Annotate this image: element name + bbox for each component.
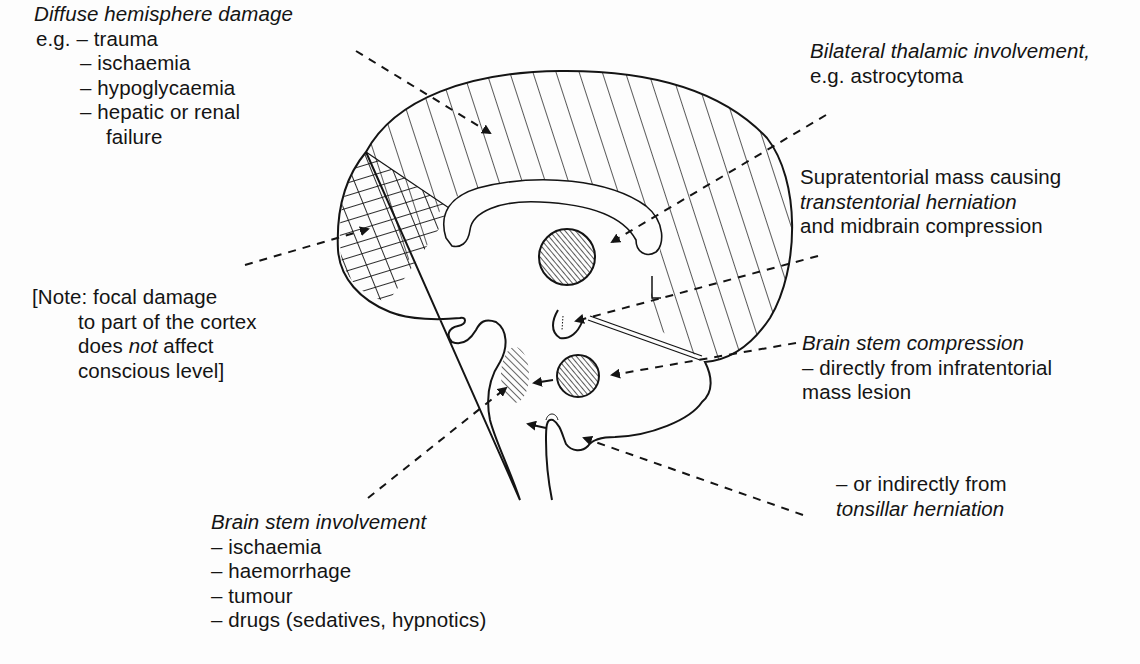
tonsillar-label: – or indirectly from tonsillar herniatio… (836, 472, 1007, 521)
involvement-item: – haemorrhage (211, 559, 486, 584)
compression-title: Brain stem compression (802, 331, 1052, 356)
supratentorial-line2: transtentorial herniation (800, 190, 1061, 215)
diffuse-item: – hepatic or renal (6, 100, 293, 125)
infratentorial-mass (557, 355, 599, 397)
tonsillar-line1: – or indirectly from (836, 472, 1007, 497)
thalamic-lesion (539, 229, 595, 285)
involvement-title: Brain stem involvement (211, 510, 486, 535)
brainstem-compression-label: Brain stem compression – directly from i… (802, 331, 1052, 405)
diffuse-item: – ischaemia (6, 51, 293, 76)
involvement-item: – drugs (sedatives, hypnotics) (211, 608, 486, 633)
compression-line2: mass lesion (802, 380, 1052, 405)
diffuse-item: failure (6, 125, 293, 150)
note-line4: conscious level] (32, 359, 257, 384)
supratentorial-line1: Supratentorial mass causing (800, 165, 1061, 190)
note-line1: [Note: focal damage (32, 285, 257, 310)
diffuse-item: – hypoglycaemia (6, 76, 293, 101)
tonsillar-line2: tonsillar herniation (836, 497, 1007, 522)
involvement-item: – ischaemia (211, 535, 486, 560)
thalamic-label: Bilateral thalamic involvement, e.g. ast… (810, 39, 1090, 88)
uncal-herniation (553, 310, 582, 338)
diffuse-title: Diffuse hemisphere damage (6, 2, 293, 27)
note-line2: to part of the cortex (32, 310, 257, 335)
brainstem-involvement-label: Brain stem involvement – ischaemia – hae… (211, 510, 486, 633)
thalamic-example: e.g. astrocytoma (810, 64, 1090, 89)
involvement-item: – tumour (211, 584, 486, 609)
thalamic-title: Bilateral thalamic involvement, (810, 39, 1090, 64)
compression-line1: – directly from infratentorial (802, 356, 1052, 381)
note-line3: does not affect (32, 334, 257, 359)
diffuse-hemisphere-label: Diffuse hemisphere damage e.g. – trauma … (6, 2, 293, 149)
note-label: [Note: focal damage to part of the corte… (32, 285, 257, 383)
supratentorial-line3: and midbrain compression (800, 214, 1061, 239)
supratentorial-label: Supratentorial mass causing transtentori… (800, 165, 1061, 239)
brainstem-hatch-lesion (501, 347, 529, 403)
diffuse-item: e.g. – trauma (6, 27, 293, 52)
